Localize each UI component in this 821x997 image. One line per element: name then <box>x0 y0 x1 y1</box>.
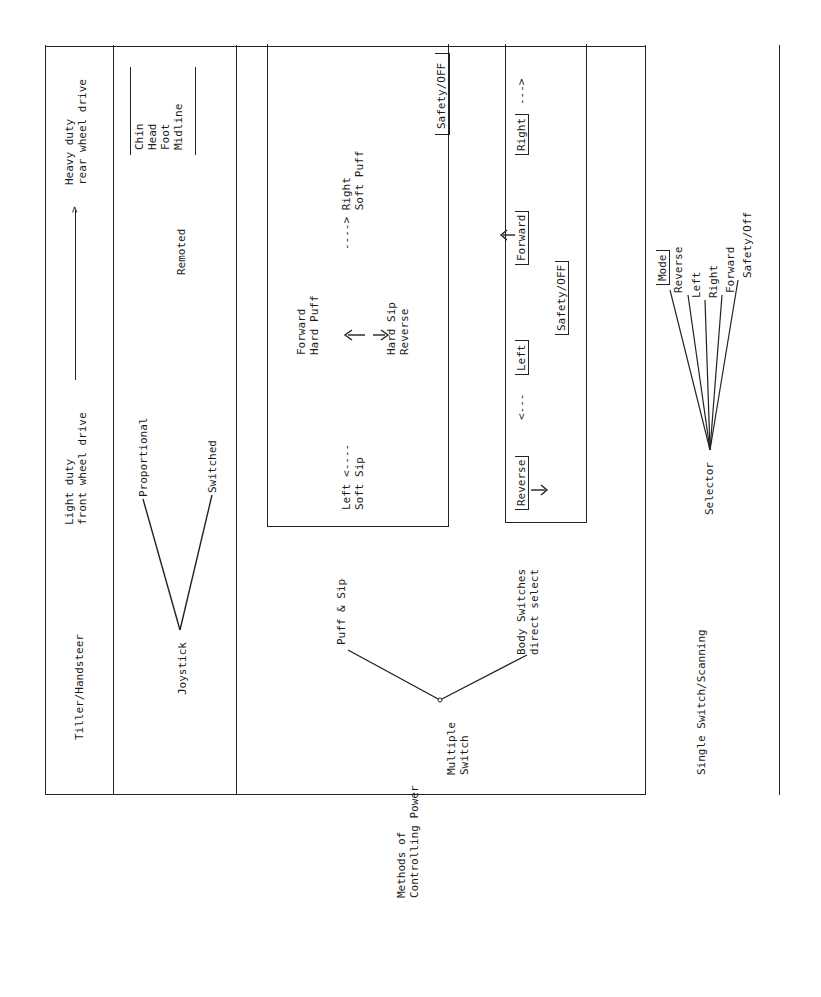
option-left: Left <box>690 272 703 299</box>
option-mode: Mode <box>656 251 670 286</box>
methods-diagram: Tiller/Handsteer Light duty front wheel … <box>45 45 780 795</box>
figure-caption: Methods of Controlling Power <box>395 785 421 898</box>
option-forward: Forward <box>724 247 737 293</box>
selector-fan <box>45 45 780 795</box>
selector-label: Selector <box>703 462 716 515</box>
option-safety: Safety/Off <box>741 212 754 278</box>
option-right: Right <box>707 265 720 298</box>
option-reverse: Reverse <box>672 247 685 293</box>
